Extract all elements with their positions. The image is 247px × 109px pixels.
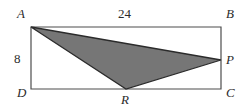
vertex-label-r: R [121,93,129,106]
measure-label-top: 24 [118,7,131,20]
vertex-label-a: A [17,7,25,20]
measure-label-left: 8 [14,52,21,65]
vertex-label-b: B [226,7,234,20]
vertex-label-c: C [226,86,235,99]
vertex-label-d: D [17,86,26,99]
vertex-label-p: P [226,53,234,66]
shaded-triangle-apr [31,27,221,89]
geometry-figure: A B C D P R 24 8 [0,0,247,109]
